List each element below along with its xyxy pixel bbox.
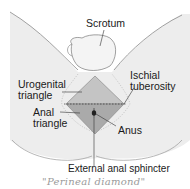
label-urogenital-line2: triangle xyxy=(18,90,66,101)
handwritten-caption: "Perineal diamond" xyxy=(42,176,145,187)
scrotum-shape xyxy=(71,35,116,71)
label-anal-triangle: Anal triangle xyxy=(33,107,67,129)
label-external-anal-sphincter: External anal sphincter xyxy=(68,163,170,174)
label-urogenital-triangle: Urogenital triangle xyxy=(18,79,66,101)
label-anal-line2: triangle xyxy=(33,118,67,129)
label-anus: Anus xyxy=(118,125,142,136)
label-ischial-line2: tuberosity xyxy=(130,81,176,92)
perineum-diagram: Scrotum Urogenital triangle Ischial tube… xyxy=(0,0,190,189)
label-ischial-tuberosity: Ischial tuberosity xyxy=(130,70,176,92)
label-scrotum: Scrotum xyxy=(86,18,125,29)
